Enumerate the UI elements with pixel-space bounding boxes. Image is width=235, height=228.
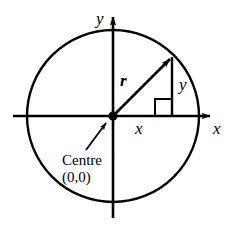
centre-leader-arrow [86,123,106,150]
right-angle-marker [155,99,172,116]
circle-diagram: y x r y x Centre (0,0) [0,0,235,228]
x-axis-label: x [213,120,221,137]
radius-label: r [120,72,127,89]
horizontal-component-label: x [135,120,143,137]
origin-dot [108,111,117,120]
vertical-component-label: y [179,76,187,93]
diagram-canvas [0,0,235,228]
y-axis-label: y [96,10,104,27]
centre-label-line2: (0,0) [62,169,102,186]
centre-label: Centre (0,0) [62,152,102,187]
centre-label-line1: Centre [62,152,102,169]
